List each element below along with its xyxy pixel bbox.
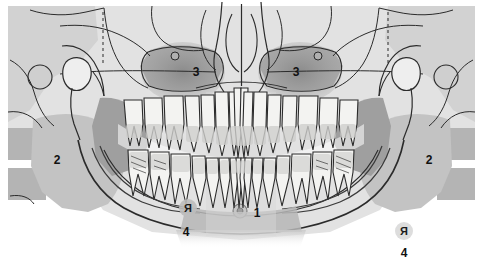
label-1: 1 [254,206,261,220]
label-3-right: 3 [293,65,300,79]
left-infraorbital-foramen-icon [171,52,179,60]
label-2-left: 2 [54,153,61,167]
right-infraorbital-foramen-icon [314,52,322,60]
label-2-right: 2 [426,153,433,167]
label-3-left: 3 [193,65,200,79]
right-condyle-head [392,58,420,91]
panoramic-diagram-svg: 1 2 2 3 3 4 4 Я Я [0,0,483,266]
panoramic-radiograph-figure: 1 2 2 3 3 4 4 Я Я [0,0,483,266]
left-condyle-head [63,58,91,91]
right-external-auditory-meatus-icon [434,65,458,89]
marker-r-center: Я [184,202,192,214]
label-4-right: 4 [401,246,408,260]
marker-r-right: Я [400,225,408,237]
label-4-center: 4 [183,225,190,239]
